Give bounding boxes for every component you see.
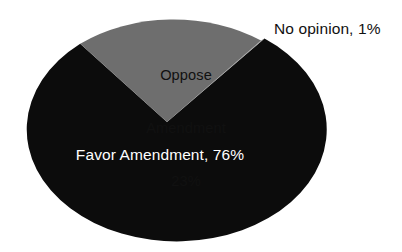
pie-chart-figure: Favor Amendment, 76% Oppose Amendment 23… [0, 0, 402, 252]
pie-label-oppose: Oppose Amendment 23% [126, 31, 246, 227]
pie-label-oppose-line-3: 23% [126, 173, 246, 191]
pie-label-oppose-line-1: Oppose [126, 67, 246, 85]
pie-label-no-opinion: No opinion, 1% [274, 20, 381, 39]
pie-label-oppose-line-2: Amendment [126, 120, 246, 138]
